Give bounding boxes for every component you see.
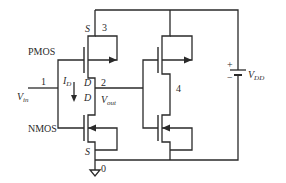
vin-label: Vin <box>17 91 29 104</box>
load-nmos-transistor-icon <box>158 90 192 160</box>
nmos-drain-label: D <box>83 92 92 103</box>
current-arrow-icon <box>71 82 77 102</box>
pmos-label: PMOS <box>28 46 55 57</box>
node-0-label: 0 <box>101 163 106 174</box>
vout-label: Vout <box>101 94 117 107</box>
nmos-label: NMOS <box>28 123 57 134</box>
circuit-diagram: + − VDD PMOS S 3 D 2 Vout D NMOS S ID 1 … <box>0 0 286 183</box>
node-2-label: 2 <box>101 77 106 88</box>
node-1-label: 1 <box>41 76 46 87</box>
ground-icon <box>90 160 100 176</box>
node-4-label: 4 <box>176 83 181 94</box>
pmos-source-label: S <box>85 23 90 34</box>
load-gate-wire <box>143 60 158 128</box>
vdd-label: VDD <box>248 69 264 82</box>
node-3-label: 3 <box>102 22 107 33</box>
nmos-source-label: S <box>85 146 90 157</box>
load-pmos-transistor-icon <box>158 10 192 90</box>
pmos-drain-label: D <box>83 77 92 88</box>
vdd-minus-label: − <box>227 72 233 83</box>
id-label: ID <box>62 75 71 88</box>
vdd-plus-label: + <box>227 59 233 70</box>
